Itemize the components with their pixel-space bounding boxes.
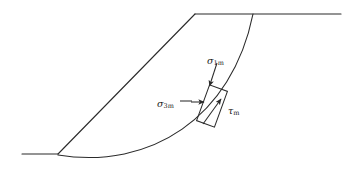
sigma3m-subscript: 3m <box>164 102 175 110</box>
sigma3m-label: σ3m <box>157 94 174 110</box>
slope-stability-figure: σ1m σ3m τm <box>0 0 357 175</box>
failure-surface-curve <box>58 14 253 158</box>
soil-element-box <box>197 85 228 127</box>
slope-face-line <box>58 14 195 154</box>
sigma1m-label: σ1m <box>207 51 224 67</box>
sigma1m-subscript: 1m <box>214 59 225 67</box>
slope-diagram-svg <box>0 0 357 175</box>
taum-label: τm <box>228 101 240 117</box>
taum-subscript: m <box>233 109 239 117</box>
